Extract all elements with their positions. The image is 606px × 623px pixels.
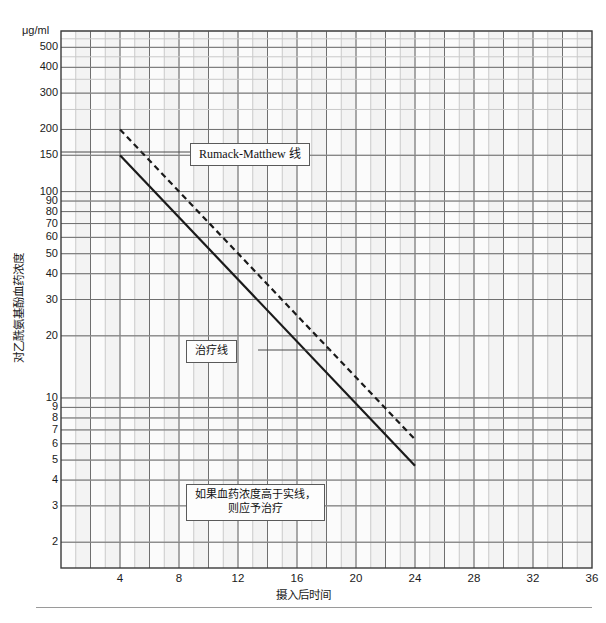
x-tick-label: 24 <box>400 572 430 584</box>
x-tick-label: 4 <box>105 572 135 584</box>
x-tick-label: 32 <box>518 572 548 584</box>
x-axis-tick-labels: 4812162024283236 <box>0 0 606 623</box>
x-tick-label: 12 <box>223 572 253 584</box>
annotation-treatment-line: 治疗线 <box>186 340 237 363</box>
annotation-note-line2: 则应予治疗 <box>195 502 316 516</box>
x-tick-label: 28 <box>459 572 489 584</box>
annotation-rumack-matthew: Rumack-Matthew 线 <box>190 143 310 166</box>
annotation-note-line1: 如果血药浓度高于实线， <box>195 488 316 502</box>
x-tick-label: 36 <box>577 572 606 584</box>
nomogram-figure: μg/ml 对乙酰氨基酚血药浓度 摄入后时间 50040030020015010… <box>0 0 606 623</box>
x-tick-label: 20 <box>341 572 371 584</box>
footer-divider <box>36 607 592 608</box>
x-tick-label: 16 <box>282 572 312 584</box>
annotation-note: 如果血药浓度高于实线， 则应予治疗 <box>186 484 325 521</box>
x-tick-label: 8 <box>164 572 194 584</box>
